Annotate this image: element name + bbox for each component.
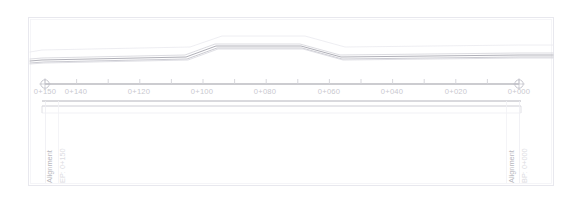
station-label: 0+020 xyxy=(445,87,467,96)
alignment-begin-station-label: BP: 0+000 xyxy=(520,148,529,183)
station-label: 0+150 xyxy=(34,87,56,96)
station-label: 0+120 xyxy=(128,87,150,96)
alignment-end-station-label: EP: 0+150 xyxy=(58,148,67,183)
road-corridor xyxy=(30,36,553,64)
station-label: 0+080 xyxy=(254,87,276,96)
alignment-end-name-label: Alignment xyxy=(45,150,54,183)
station-label: 0+040 xyxy=(381,87,403,96)
station-axis xyxy=(45,79,519,84)
station-label: 0+000 xyxy=(508,87,530,96)
station-label: 0+140 xyxy=(65,87,87,96)
drawing-canvas: 0+1500+1400+1200+1000+0800+0600+0400+020… xyxy=(0,0,578,200)
station-label: 0+060 xyxy=(318,87,340,96)
station-label: 0+100 xyxy=(191,87,213,96)
alignment-begin-name-label: Alignment xyxy=(507,150,516,183)
alignment-baselines xyxy=(42,101,521,113)
alignment-drawing xyxy=(0,0,578,200)
